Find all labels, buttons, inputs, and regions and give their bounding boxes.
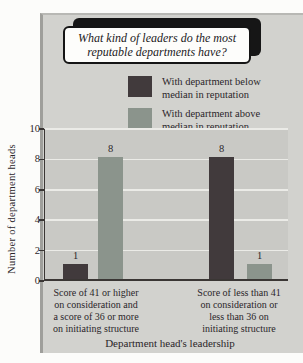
legend-swatch-above-median xyxy=(128,108,152,129)
x-category-label-line: a score of 36 or more xyxy=(40,311,152,323)
y-tick-mark xyxy=(39,250,44,252)
bar-value-label: 8 xyxy=(201,143,242,154)
plot-area: 1881 xyxy=(44,129,288,281)
legend-item-below-median: With department below median in reputati… xyxy=(128,76,261,101)
legend-label-line: median in reputation xyxy=(162,89,261,102)
legend-label-line: With department above xyxy=(162,108,260,121)
x-category-label-line: on consideration and xyxy=(40,299,152,311)
x-category-label-line: on initiating structure xyxy=(40,323,152,335)
bar-value-label: 1 xyxy=(55,250,96,261)
chart-title-line1: What kind of leaders do the most xyxy=(78,31,236,45)
x-category-label-2: Score of less than 41on consideration or… xyxy=(178,287,300,335)
y-tick-label: 2 xyxy=(6,245,40,257)
y-tick-label: 0 xyxy=(6,275,40,287)
x-category-label-line: on consideration or xyxy=(178,299,300,311)
legend-label-line: With department below xyxy=(162,76,261,89)
bar-value-label: 1 xyxy=(239,250,280,261)
x-category-label-line: initiating structure xyxy=(178,323,300,335)
bar-above-median-group2 xyxy=(247,264,272,279)
gridline xyxy=(45,128,288,130)
gridline xyxy=(45,189,288,191)
bar-below-median-group2 xyxy=(209,157,234,279)
gridline xyxy=(45,159,288,161)
y-tick-mark xyxy=(39,280,44,282)
y-tick-label: 8 xyxy=(6,153,40,165)
chart-title-line2: reputable departments have? xyxy=(87,45,227,59)
chart-legend: With department below median in reputati… xyxy=(128,76,261,133)
y-tick-label: 4 xyxy=(6,214,40,226)
x-category-label-line: Score of less than 41 xyxy=(178,287,300,299)
chart-title-box: What kind of leaders do the most reputab… xyxy=(63,26,251,64)
legend-label-below-median: With department below median in reputati… xyxy=(162,76,261,101)
y-tick-mark xyxy=(39,128,44,130)
y-tick-mark xyxy=(39,159,44,161)
x-category-label-line: Score of 41 or higher xyxy=(40,287,152,299)
gridline xyxy=(45,219,288,221)
x-category-label-1: Score of 41 or higheron consideration an… xyxy=(40,287,152,335)
x-category-label-line: less than 36 on xyxy=(178,311,300,323)
bar-below-median-group1 xyxy=(63,264,88,279)
bar-value-label: 8 xyxy=(90,143,131,154)
y-tick-mark xyxy=(39,189,44,191)
y-tick-mark xyxy=(39,219,44,221)
figure: What kind of leaders do the most reputab… xyxy=(0,0,303,363)
x-axis-title: Department head's leadership xyxy=(44,337,296,349)
legend-swatch-below-median xyxy=(128,76,152,97)
y-tick-label: 10 xyxy=(6,123,40,135)
bar-above-median-group1 xyxy=(98,157,123,279)
y-tick-label: 6 xyxy=(6,184,40,196)
